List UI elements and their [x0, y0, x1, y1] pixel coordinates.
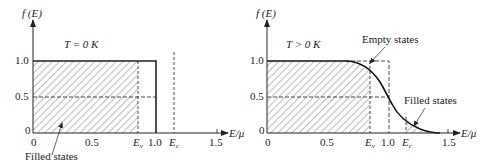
y-axis-label: f (E) — [256, 7, 276, 20]
y-tick-0: 0 — [259, 124, 265, 136]
y-tick-0-5: 0.5 — [250, 90, 264, 102]
y-tick-0-5: 0.5 — [15, 90, 29, 102]
temperature-label: T > 0 K — [286, 38, 321, 50]
x-tick-1-0: 1.0 — [381, 136, 395, 148]
x-tick-1-5: 1.5 — [442, 136, 456, 148]
x-axis-label: E/μ — [228, 127, 245, 139]
y-axis-label: f (E) — [22, 7, 42, 20]
y-tick-0: 0 — [25, 124, 31, 136]
temperature-label: T = 0 K — [64, 38, 99, 50]
x-tick-0: 0 — [265, 136, 271, 148]
fermi-dirac-diagram: f (E) E/μ T = 0 K 1.0 0.5 0 0 0.5 1.0 1.… — [0, 0, 492, 167]
filled-states-annotation: Filled states — [25, 150, 78, 162]
ec-label: Ec — [401, 136, 413, 150]
x-axis-label: E/μ — [460, 127, 477, 139]
x-tick-1-5: 1.5 — [209, 136, 223, 148]
x-tick-0-5: 0.5 — [320, 136, 334, 148]
ev-label: Ev — [364, 136, 376, 150]
x-tick-0: 0 — [31, 136, 37, 148]
filled-states-annotation: Filled states — [404, 94, 457, 106]
ec-label: Ec — [168, 136, 180, 150]
x-tick-0-5: 0.5 — [85, 136, 99, 148]
empty-states-annotation: Empty states — [362, 33, 419, 45]
filled-states-pointer — [414, 108, 425, 126]
y-tick-1-0: 1.0 — [250, 54, 264, 66]
ev-label: Ev — [132, 136, 144, 150]
y-tick-1-0: 1.0 — [15, 54, 29, 66]
left-panel-t0: f (E) E/μ T = 0 K 1.0 0.5 0 0 0.5 1.0 1.… — [15, 7, 245, 162]
x-tick-1-0: 1.0 — [148, 136, 162, 148]
right-panel-t-positive: f (E) E/μ T > 0 K 1.0 0.5 0 0 0.5 1.0 1.… — [250, 7, 477, 150]
